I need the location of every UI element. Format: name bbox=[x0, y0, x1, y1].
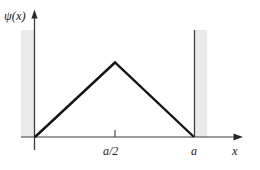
x-tick-label-a: a bbox=[191, 145, 197, 157]
y-axis-label: ψ(x) bbox=[4, 10, 26, 23]
wavefunction-figure: ψ(x) x a/2 a bbox=[0, 0, 260, 170]
x-axis-label: x bbox=[232, 145, 238, 158]
right-potential-wall-band bbox=[196, 30, 208, 137]
x-tick-label-a-half: a/2 bbox=[103, 145, 118, 157]
y-axis-arrowhead bbox=[31, 10, 37, 19]
plot-canvas bbox=[0, 0, 260, 170]
left-potential-wall-band bbox=[21, 30, 34, 137]
x-axis-arrowhead bbox=[234, 134, 244, 141]
wavefunction-curve bbox=[35, 63, 194, 138]
